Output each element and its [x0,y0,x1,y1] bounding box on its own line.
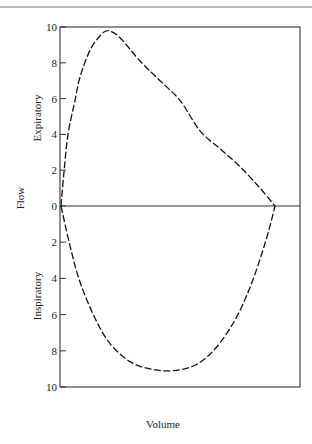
y-tick-label: 4 [52,272,58,284]
y-tick-label: 2 [52,236,58,248]
y-axis-title: Flow [14,187,26,210]
y-tick-label: 0 [52,200,58,212]
flow-volume-chart: 1086420246810 Flow Expiratory Inspirator… [0,0,312,444]
x-axis-title: Volume [146,418,180,430]
expiratory-label: Expiratory [31,94,43,142]
y-tick-label: 10 [46,381,58,393]
plot-frame [60,27,300,387]
y-tick-label: 2 [52,164,58,176]
y-tick-label: 6 [52,309,58,321]
expiratory-curve [61,31,275,206]
y-tick-label: 6 [52,93,58,105]
y-tick-label: 8 [52,57,58,69]
inspiratory-label: Inspiratory [31,271,43,320]
y-tick-label: 8 [52,345,58,357]
inspiratory-curve [61,206,275,371]
y-axis-tick-labels: 1086420246810 [46,21,58,393]
y-tick-label: 10 [46,21,58,33]
y-tick-label: 4 [52,128,58,140]
